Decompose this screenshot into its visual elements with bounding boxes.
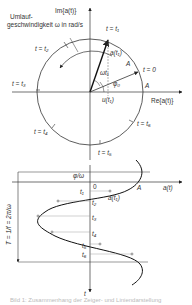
origin-label: 0 xyxy=(93,183,97,190)
phase-offset-label: φ/ω xyxy=(73,172,84,180)
speed-label-line1: Umlauf- xyxy=(10,13,33,20)
phase-label: φ₀ xyxy=(113,80,120,88)
time-marker-t6: t = t₆ xyxy=(137,120,151,127)
tick-t1: t₁ xyxy=(80,188,84,195)
period-label: T = 1/f = 2π/ω xyxy=(5,204,12,245)
projection-label: u(t₁) xyxy=(102,96,114,104)
time-marker-t0: t = 0 xyxy=(143,66,156,73)
phasor-diagram: Im{a(t)} Umlauf- geschwindigkeit ω in ra… xyxy=(7,7,182,160)
amplitude-label: A xyxy=(144,82,149,89)
amplitude-phasor-label: A xyxy=(125,60,130,67)
time-axis-label: t xyxy=(84,290,87,297)
point-label: a(t₁) xyxy=(108,194,120,202)
tick-t4: t₄ xyxy=(92,230,97,237)
line-amplitude-label: A xyxy=(136,184,141,191)
angle-omega-t-label: ωt₁ xyxy=(100,69,109,76)
phasor-label: a(t₁) xyxy=(110,49,122,57)
tick-t5: t₅ xyxy=(82,242,87,249)
time-marker-t1: t = t₁ xyxy=(106,25,119,32)
phasor-sine-diagram: Im{a(t)} Umlauf- geschwindigkeit ω in ra… xyxy=(0,0,192,305)
time-marker-t2: t = t₂ xyxy=(35,45,49,52)
rotation-arc xyxy=(60,51,112,68)
tick-t3: t₃ xyxy=(92,214,97,221)
time-marker-t4: t = t₄ xyxy=(34,128,48,135)
tick-t6: t₆ xyxy=(82,251,87,258)
value-axis-label: a(t) xyxy=(163,184,173,192)
figure-caption: Bild 1: Zusammenhang der Zeiger- und Lin… xyxy=(10,297,161,303)
time-marker-t5: t = t₅ xyxy=(98,149,112,156)
line-diagram: φ/ω 0 A a(t) a(t₁) t₁ t₂ t₃ t₄ t₅ t₆ t T… xyxy=(5,160,182,297)
speed-label-line2: geschwindigkeit ω in rad/s xyxy=(7,21,84,29)
tick-t2: t₂ xyxy=(92,199,97,206)
re-axis-label: Re{a(t)} xyxy=(151,97,174,105)
time-marker-t3: t = t₃ xyxy=(12,80,26,87)
im-axis-label: Im{a(t)} xyxy=(55,7,77,15)
